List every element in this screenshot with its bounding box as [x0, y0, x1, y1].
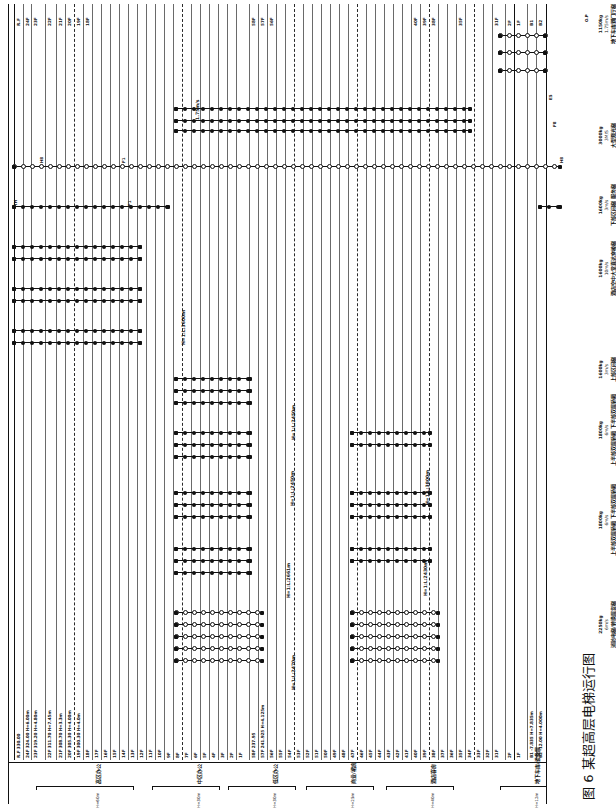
- stop-marker: [444, 107, 448, 111]
- floor-label-1f: 1F: [517, 752, 521, 758]
- stop-marker: [228, 658, 233, 663]
- stop-marker: [183, 129, 187, 133]
- stop-marker: [48, 257, 52, 261]
- stop-marker: [210, 571, 214, 575]
- stop-marker: [291, 164, 296, 169]
- floor-label-37f: 37F: [441, 750, 445, 758]
- stop-marker: [395, 443, 399, 447]
- stop-marker: [363, 164, 368, 169]
- spec-capacity: 1600kg: [598, 357, 604, 382]
- stop-marker: [147, 164, 152, 169]
- stop-marker: [264, 119, 268, 123]
- stop-marker: [359, 431, 363, 435]
- floor-line-52f: [303, 4, 304, 760]
- run-endpoint-marker: [12, 329, 16, 333]
- stop-marker: [228, 119, 232, 123]
- stop-marker: [264, 107, 268, 111]
- stop-marker: [30, 257, 34, 261]
- floor-label-40f: 40F: [414, 750, 418, 758]
- floor-label-21f: 21F 308.70 H=3.3m: [59, 713, 63, 758]
- stop-marker: [404, 658, 409, 663]
- floor-tag-2f: 2F: [508, 20, 512, 26]
- stop-marker: [404, 491, 408, 495]
- stop-marker: [111, 287, 115, 291]
- stop-marker: [395, 610, 400, 615]
- stop-marker: [282, 129, 286, 133]
- run-endpoint-marker: [468, 129, 472, 133]
- floor-line-45f: [366, 4, 367, 760]
- stop-marker: [359, 658, 364, 663]
- spec-name: 大型观光梯: [610, 123, 616, 148]
- stop-marker: [534, 50, 539, 55]
- stop-marker: [201, 658, 206, 663]
- stop-marker: [39, 329, 43, 333]
- lift-tag: F1: [128, 200, 132, 206]
- stop-marker: [498, 164, 503, 169]
- stop-marker: [516, 68, 521, 73]
- floor-label-53f: 53F: [297, 750, 301, 758]
- stop-marker: [183, 389, 187, 393]
- stop-marker: [93, 287, 97, 291]
- stop-marker: [413, 547, 417, 551]
- stop-marker: [192, 622, 197, 627]
- stop-marker: [48, 164, 53, 169]
- floor-line-10f: [155, 4, 156, 760]
- stop-marker: [228, 164, 233, 169]
- run-endpoint-marker: [350, 635, 354, 639]
- stop-marker: [368, 559, 372, 563]
- stop-marker: [129, 257, 133, 261]
- stop-marker: [377, 431, 381, 435]
- stop-marker: [453, 107, 457, 111]
- stop-marker: [192, 377, 196, 381]
- stop-marker: [246, 129, 250, 133]
- floor-tag-40f: 40F: [414, 17, 418, 26]
- run-endpoint-marker: [428, 515, 432, 519]
- stop-marker: [210, 377, 214, 381]
- stop-marker: [399, 119, 403, 123]
- spec-speed: 1.75m/s: [604, 4, 610, 44]
- stop-marker: [183, 401, 187, 405]
- stop-marker: [219, 503, 223, 507]
- run-endpoint-marker: [350, 503, 354, 507]
- floor-label-31f: 31F: [495, 750, 499, 758]
- stop-marker: [547, 205, 551, 209]
- zone-bracket: [152, 786, 220, 790]
- floor-label-18f: 18F: [86, 750, 90, 758]
- stop-marker: [377, 503, 381, 507]
- stop-marker: [408, 164, 413, 169]
- run-endpoint-marker: [12, 245, 16, 249]
- floor-tag-56f: 56F: [270, 17, 274, 26]
- spec-name: 上半部双层轿厢 下半部双层轿厢: [610, 394, 616, 466]
- floor-line-39f: [420, 4, 421, 760]
- floor-tag-b2: B2: [539, 20, 543, 26]
- stop-marker: [309, 129, 313, 133]
- stop-marker: [525, 33, 530, 38]
- stop-marker: [386, 658, 391, 663]
- stop-marker: [75, 299, 79, 303]
- stop-marker: [377, 658, 382, 663]
- stop-marker: [282, 164, 287, 169]
- stop-marker: [66, 164, 71, 169]
- run-endpoint-marker: [350, 559, 354, 563]
- stop-marker: [66, 205, 70, 209]
- run-endpoint-marker: [468, 107, 472, 111]
- stop-marker: [228, 491, 232, 495]
- run-endpoint-marker: [558, 165, 562, 169]
- stop-marker: [120, 164, 125, 169]
- stop-marker: [309, 164, 314, 169]
- stop-marker: [228, 515, 232, 519]
- stop-marker: [219, 455, 223, 459]
- stop-marker: [30, 245, 34, 249]
- stop-marker: [66, 329, 70, 333]
- run-endpoint-marker: [248, 455, 252, 459]
- stop-marker: [246, 622, 251, 627]
- stop-marker: [354, 164, 359, 169]
- spec-speed: 6m/s: [604, 394, 610, 466]
- stop-marker: [39, 299, 43, 303]
- run-endpoint-marker: [260, 611, 264, 615]
- stop-marker: [183, 164, 188, 169]
- stop-marker: [183, 646, 188, 651]
- run-endpoint-marker: [436, 647, 440, 651]
- stop-marker: [48, 299, 52, 303]
- run-endpoint-marker: [174, 547, 178, 551]
